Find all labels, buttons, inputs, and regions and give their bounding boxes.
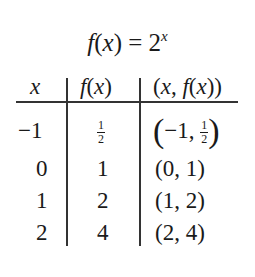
row4-fx: 4: [97, 220, 109, 246]
header-x: x: [30, 74, 40, 100]
row3-fx: 2: [97, 188, 109, 214]
exponent: x: [161, 28, 168, 44]
header-fx: f(x): [80, 74, 112, 100]
paren: (: [94, 29, 102, 56]
row1-pair: (−1, 12): [153, 118, 220, 145]
row4-x: 2: [36, 220, 48, 246]
header-pair: (x, f(x)): [153, 74, 222, 100]
equals-base: ) = 2: [114, 29, 161, 56]
column-divider-1: [66, 78, 68, 246]
row2-fx: 1: [97, 156, 109, 182]
column-divider-2: [139, 78, 141, 246]
function-title: f(x) = 2x: [0, 28, 255, 57]
row1-x: −1: [18, 118, 42, 144]
row4-pair: (2, 4): [155, 220, 205, 246]
row2-pair: (0, 1): [155, 156, 205, 182]
row3-x: 1: [36, 188, 48, 214]
header-rule: [16, 101, 238, 103]
var-x: x: [103, 29, 114, 56]
row2-x: 0: [36, 156, 48, 182]
row3-pair: (1, 2): [155, 188, 205, 214]
row1-fx: 12: [97, 118, 105, 145]
